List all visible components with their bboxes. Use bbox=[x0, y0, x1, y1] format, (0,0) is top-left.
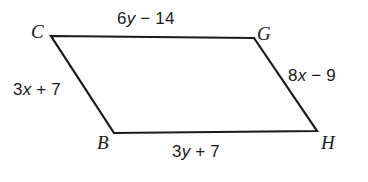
side-top-coefficient: 6 bbox=[117, 9, 127, 28]
side-left-coefficient: 3 bbox=[13, 80, 23, 99]
side-bottom-coefficient: 3 bbox=[172, 142, 182, 161]
vertex-label-b: B bbox=[97, 133, 109, 152]
side-label-left-cb: 3x + 7 bbox=[13, 81, 61, 98]
side-right-operator: − bbox=[306, 66, 326, 85]
vertex-label-g: G bbox=[257, 24, 271, 43]
side-left-operator: + bbox=[31, 80, 51, 99]
side-label-bottom-bh: 3y + 7 bbox=[172, 143, 220, 160]
side-top-operator: − bbox=[135, 9, 155, 28]
parallelogram-outline bbox=[51, 36, 317, 133]
side-left-constant: 7 bbox=[51, 80, 61, 99]
side-right-constant: 9 bbox=[326, 66, 336, 85]
vertex-label-c: C bbox=[31, 22, 44, 41]
side-bottom-operator: + bbox=[190, 142, 210, 161]
side-bottom-constant: 7 bbox=[210, 142, 220, 161]
side-label-top-cg: 6y − 14 bbox=[117, 10, 175, 27]
side-label-right-gh: 8x − 9 bbox=[288, 67, 336, 84]
side-right-coefficient: 8 bbox=[288, 66, 298, 85]
vertex-label-h: H bbox=[321, 133, 335, 152]
side-top-constant: 14 bbox=[155, 9, 174, 28]
diagram-canvas: C G H B 6y − 14 3x + 7 8x − 9 3y + 7 bbox=[0, 0, 368, 182]
